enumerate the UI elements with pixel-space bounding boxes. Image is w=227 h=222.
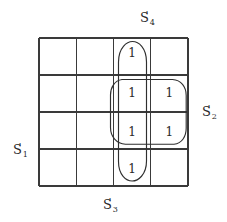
kmap-groups <box>111 42 187 182</box>
kmap-drawing <box>0 0 227 222</box>
kmap-grid <box>39 38 188 186</box>
kmap-cell-value: 1 <box>125 87 139 99</box>
variable-label-left: S'1 <box>13 142 28 159</box>
karnaugh-map-figure: S'4 S'2 S'1 S'3 111111 <box>0 0 227 222</box>
variable-label-top-subscript: 4 <box>150 18 155 27</box>
variable-label-bottom-subscript: 3 <box>113 205 118 214</box>
kmap-cell-value: 1 <box>125 126 139 138</box>
variable-label-right: S'2 <box>202 104 217 121</box>
variable-label-top-prime: ' <box>146 9 149 22</box>
variable-label-bottom: S'3 <box>103 197 118 214</box>
kmap-cell-value: 1 <box>162 87 176 99</box>
variable-label-right-subscript: 2 <box>212 112 217 121</box>
variable-label-top: S'4 <box>140 10 155 27</box>
kmap-cell-value: 1 <box>125 163 139 175</box>
group-vertical-oval <box>119 42 147 182</box>
variable-label-left-prime: ' <box>19 141 22 154</box>
variable-label-bottom-prime: ' <box>109 196 112 209</box>
variable-label-right-prime: ' <box>208 103 211 116</box>
kmap-cell-value: 1 <box>125 47 139 59</box>
variable-label-left-subscript: 1 <box>23 150 28 159</box>
kmap-cell-value: 1 <box>162 126 176 138</box>
